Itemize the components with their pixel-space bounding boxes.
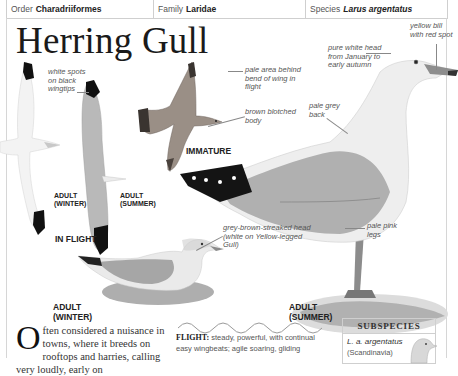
- family-cell: Family Laridae: [154, 0, 306, 18]
- species-description: Often considered a nuisance in towns, wh…: [16, 324, 168, 376]
- species-label: Species: [310, 4, 340, 14]
- leader-line-wingtips: [77, 92, 89, 93]
- flight-pattern-wave-icon: [178, 318, 328, 330]
- subspecies-heading: SUBSPECIES: [343, 319, 435, 334]
- family-label: Family: [158, 4, 183, 14]
- annotation-wingtips: white spots on black wingtips: [48, 68, 92, 94]
- leader-line-white-head: [366, 53, 391, 54]
- species-value: Larus argentatus: [343, 4, 412, 14]
- annotation-pale-grey-back: pale grey back: [309, 102, 343, 119]
- caption-adult-winter: ADULT (WINTER): [53, 302, 92, 322]
- gull-adult-winter-swimming-illustration: [78, 236, 228, 306]
- caption-adult-summer-flight: ADULT (SUMMER): [120, 192, 156, 208]
- annotation-legs: pale pink legs: [367, 222, 407, 239]
- flight-label: FLIGHT:: [176, 333, 209, 342]
- annotation-streaked-head: grey-brown-streaked head (white on Yello…: [223, 224, 311, 250]
- leader-line-legs: [345, 228, 365, 229]
- dropcap: O: [16, 325, 41, 351]
- flight-description: FLIGHT: steady, powerful, with continual…: [176, 332, 326, 354]
- caption-adult-winter-flight: ADULT (WINTER): [54, 192, 86, 208]
- gull-flight-adult-summer-illustration: [68, 80, 133, 255]
- leader-line-bill: [436, 44, 437, 70]
- annotation-white-head: pure white head from January to early au…: [328, 44, 384, 70]
- order-label: Order: [11, 4, 33, 14]
- subspecies-panel: SUBSPECIES L. a. argentatus (Scandinavia…: [342, 318, 436, 364]
- subspecies-region: (Scandinavia): [347, 348, 393, 357]
- species-cell: Species Larus argentatus: [306, 0, 447, 18]
- order-cell: Order Charadriiformes: [7, 0, 154, 18]
- family-value: Laridae: [186, 4, 216, 14]
- order-value: Charadriiformes: [36, 4, 102, 14]
- taxonomy-header: Order Charadriiformes Family Laridae Spe…: [6, 0, 448, 19]
- subspecies-name: L. a. argentatus: [347, 337, 403, 346]
- subspecies-gull-head-illustration: [407, 333, 437, 363]
- annotation-bill: yellow bill with red spot: [410, 22, 454, 39]
